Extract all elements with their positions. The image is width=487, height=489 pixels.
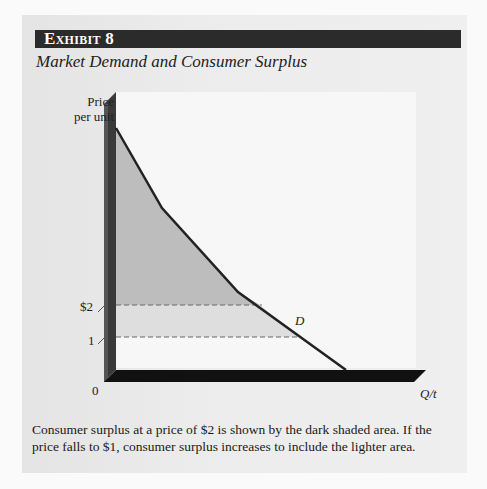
curve-label-d: D (295, 313, 304, 329)
tick-origin: 0 (92, 383, 99, 399)
y-axis-label: Price per unit (70, 94, 114, 124)
tick-1: 1 (88, 333, 95, 349)
x-axis-label: Q/t (420, 386, 437, 402)
demand-chart (0, 0, 487, 489)
x-axis-bar (104, 370, 426, 382)
tick-2: $2 (80, 299, 93, 315)
figure-caption: Consumer surplus at a price of $2 is sho… (32, 421, 457, 455)
